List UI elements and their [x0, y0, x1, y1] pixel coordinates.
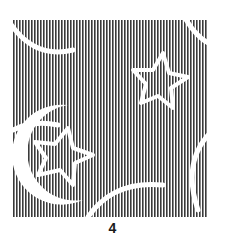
figure-label: 4 [0, 220, 225, 236]
pattern-swatch [13, 20, 208, 217]
